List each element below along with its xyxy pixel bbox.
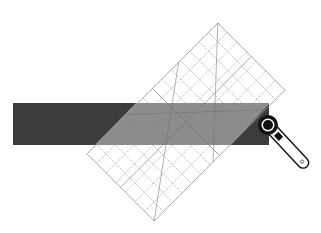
cutter-blade-hub	[263, 120, 273, 130]
illustration-canvas	[0, 0, 321, 233]
